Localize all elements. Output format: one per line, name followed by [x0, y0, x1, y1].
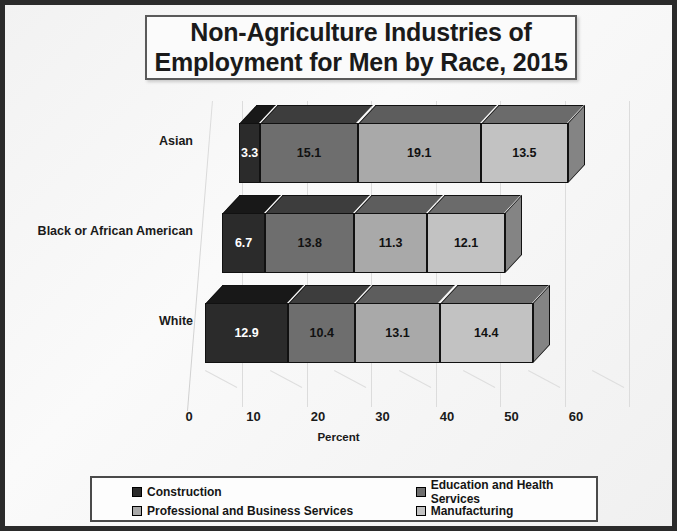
bar-value-label: 12.9: [234, 326, 258, 340]
floor-diagonal: [205, 370, 237, 388]
bar-segment-top-face: [482, 105, 584, 123]
bar-value-label: 13.5: [512, 146, 536, 160]
page-title: Non-Agriculture Industries of Employment…: [154, 18, 567, 77]
category-label: Asian: [159, 134, 239, 148]
x-tick-label: 60: [569, 409, 583, 424]
bar-segment[interactable]: 13.1: [355, 303, 439, 363]
chart-image-frame: Non-Agriculture Industries of Employment…: [0, 0, 677, 531]
floor-diagonal: [592, 370, 624, 388]
floor-diagonal: [399, 370, 431, 388]
bar-value-label: 13.8: [298, 236, 322, 250]
legend: Construction Education and Health Servic…: [90, 476, 598, 522]
bar-segment[interactable]: 12.1: [427, 213, 505, 273]
bar-segment[interactable]: 13.8: [265, 213, 354, 273]
bar-segment[interactable]: 13.5: [481, 123, 568, 183]
legend-swatch-icon: [416, 487, 426, 497]
floor-diagonal: [528, 370, 560, 388]
legend-label: Construction: [147, 485, 222, 499]
x-tick-label: 40: [440, 409, 454, 424]
floor-diagonal: [334, 370, 366, 388]
category-label: White: [159, 314, 205, 328]
bar-segment[interactable]: 3.3: [239, 123, 260, 183]
bar-value-label: 6.7: [235, 236, 252, 250]
x-tick-label: 20: [311, 409, 325, 424]
legend-row-1: Construction Education and Health Servic…: [92, 482, 596, 501]
stacked-bar: 12.910.413.114.4: [205, 303, 533, 363]
x-tick-label: 0: [185, 409, 192, 424]
bar-value-label: 11.3: [379, 236, 403, 250]
bar-segment[interactable]: 12.9: [205, 303, 288, 363]
legend-item-manufacturing[interactable]: Manufacturing: [390, 504, 596, 518]
x-axis-label: Percent: [5, 431, 672, 443]
category-label: Black or African American: [38, 224, 222, 238]
floor-diagonal: [463, 370, 495, 388]
legend-label: Professional and Business Services: [147, 504, 353, 518]
legend-item-construction[interactable]: Construction: [92, 485, 390, 499]
bar-value-label: 10.4: [310, 326, 334, 340]
bar-segment[interactable]: 15.1: [260, 123, 357, 183]
legend-swatch-icon: [416, 506, 426, 516]
bar-segment-top-face: [441, 285, 549, 303]
bar-value-label: 12.1: [454, 236, 478, 250]
x-tick-label: 30: [375, 409, 389, 424]
bar-segment-top-face: [261, 105, 373, 123]
bar-segment[interactable]: 10.4: [288, 303, 355, 363]
chart-canvas: Non-Agriculture Industries of Employment…: [5, 5, 672, 526]
bar-segment-top-face: [359, 105, 497, 123]
bar-value-label: 13.1: [385, 326, 409, 340]
legend-label: Manufacturing: [431, 504, 514, 518]
bar-segment-top-face: [206, 285, 304, 303]
legend-item-education-and-health-services[interactable]: Education and Health Services: [390, 478, 596, 506]
bar-segment[interactable]: 19.1: [358, 123, 481, 183]
bar-value-label: 15.1: [297, 146, 321, 160]
x-tick-label: 50: [504, 409, 518, 424]
stacked-bar: 3.315.119.113.5: [239, 123, 568, 183]
legend-swatch-icon: [132, 506, 142, 516]
bar-segment[interactable]: 6.7: [222, 213, 265, 273]
x-axis-ticks: 0102030405060: [5, 409, 672, 429]
floor-diagonal: [270, 370, 302, 388]
legend-label: Education and Health Services: [431, 478, 596, 506]
plot-area: Asian3.315.119.113.5Black or African Ame…: [5, 83, 672, 453]
bar-value-label: 14.4: [474, 326, 498, 340]
gridline: [629, 101, 630, 407]
bar-segment[interactable]: 14.4: [440, 303, 533, 363]
x-tick-label: 10: [246, 409, 260, 424]
chart-title-box: Non-Agriculture Industries of Employment…: [145, 15, 577, 80]
legend-row-2: Professional and Business Services Manuf…: [92, 501, 596, 520]
bar-segment-top-face: [356, 285, 455, 303]
bar-value-label: 3.3: [241, 146, 258, 160]
stacked-bar: 6.713.811.312.1: [222, 213, 505, 273]
legend-swatch-icon: [132, 487, 142, 497]
bar-segment-top-face: [266, 195, 370, 213]
legend-item-professional-and-business-services[interactable]: Professional and Business Services: [92, 504, 390, 518]
bar-segment[interactable]: 11.3: [354, 213, 427, 273]
bar-value-label: 19.1: [407, 146, 431, 160]
